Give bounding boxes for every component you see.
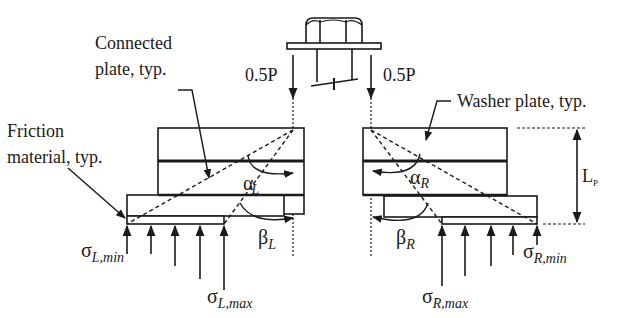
sigma-l-max-label: σL,max <box>207 285 253 311</box>
load-right-label: 0.5P <box>383 65 416 85</box>
load-left-label: 0.5P <box>245 65 278 85</box>
washer-plate-label: Washer plate, typ. <box>457 91 587 111</box>
bolt-icon <box>287 18 381 90</box>
left-plate-stack <box>127 128 304 224</box>
friction-label: Friction <box>7 121 64 141</box>
left-pressure-arrows <box>127 226 224 290</box>
connected-plate-label-2: plate, typ. <box>95 59 166 79</box>
sigma-r-min-label: σR,min <box>523 240 567 266</box>
beta-l-label: βL <box>258 226 276 252</box>
connected-plate-label: Connected <box>95 33 172 53</box>
friction-leader <box>68 168 125 218</box>
lp-label: LP <box>582 166 598 188</box>
friction-connection-diagram: Connected plate, typ. Friction material,… <box>0 0 622 318</box>
beta-r-label: βR <box>396 226 415 252</box>
sigma-l-min-label: σL,min <box>81 239 124 265</box>
friction-label-2: material, typ. <box>7 147 102 167</box>
right-plate-stack <box>363 128 537 224</box>
sigma-r-max-label: σR,max <box>422 285 469 311</box>
